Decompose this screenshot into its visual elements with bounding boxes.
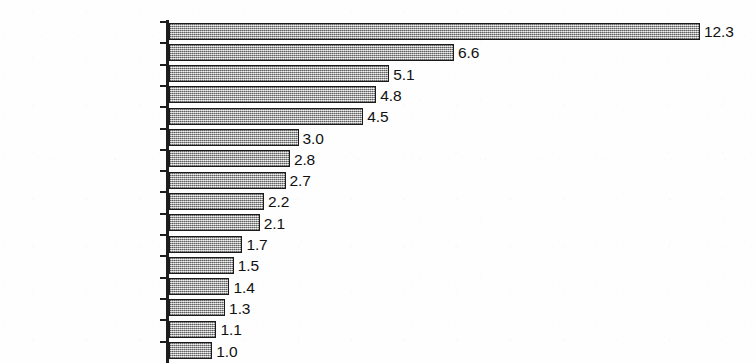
bar: [169, 44, 454, 61]
bar-value-label: 2.1: [264, 213, 285, 234]
bar: [169, 129, 299, 146]
bar: [169, 257, 234, 274]
bar: [169, 150, 290, 167]
bar-value-label: 5.1: [393, 64, 414, 85]
bar-value-label: 1.1: [220, 319, 241, 340]
bar: [169, 342, 212, 359]
bar: [169, 299, 225, 316]
bar-value-label: 12.3: [704, 21, 734, 42]
bar: [169, 65, 389, 82]
bar-value-label: 2.2: [268, 191, 289, 212]
bar: [169, 321, 216, 338]
bar-value-label: 1.3: [229, 298, 250, 319]
bar: [169, 108, 363, 125]
bar-value-label: 1.4: [233, 277, 254, 298]
bar-value-label: 4.5: [367, 106, 388, 127]
bar-value-label: 2.8: [294, 149, 315, 170]
bar-value-label: 2.7: [290, 170, 311, 191]
bar: [169, 172, 286, 189]
bar: [169, 236, 242, 253]
bar-value-label: 1.7: [246, 234, 267, 255]
bar-value-label: 4.8: [380, 85, 401, 106]
bar: [169, 86, 376, 103]
bar: [169, 23, 700, 40]
category-axis-line: [166, 20, 169, 363]
bar: [169, 193, 264, 210]
bar-value-label: 6.6: [458, 42, 479, 63]
bar-value-label: 1.5: [238, 255, 259, 276]
bar: [169, 278, 229, 295]
bar-value-label: 3.0: [303, 128, 324, 149]
bar-value-label: 1.0: [216, 341, 237, 362]
bar: [169, 214, 260, 231]
